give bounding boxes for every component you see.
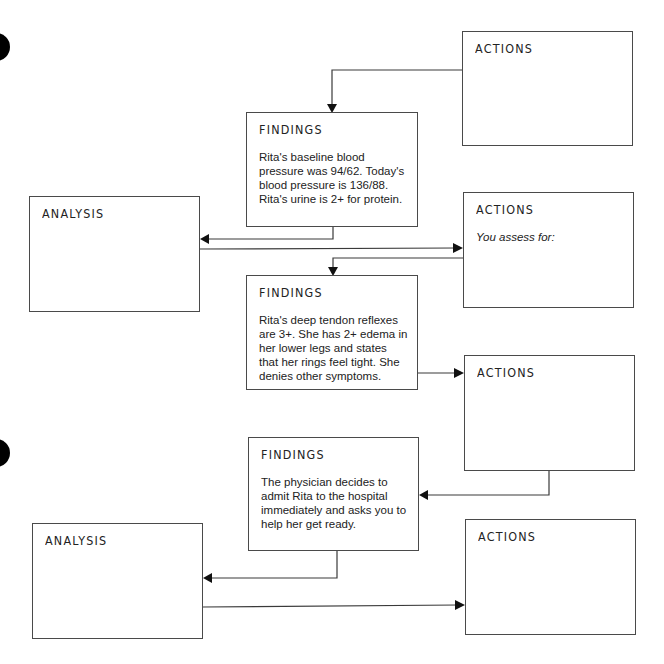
- connector-analysis1-to-actions2: [199, 243, 463, 253]
- findings-box-3-title: FINDINGS: [261, 447, 325, 462]
- connector-findings2-to-actions3: [418, 368, 464, 378]
- actions-box-2[interactable]: ACTIONS You assess for:: [463, 192, 634, 308]
- analysis-box-1[interactable]: ANALYSIS: [29, 196, 200, 312]
- findings-box-2: FINDINGS Rita's deep tendon reflexes are…: [246, 275, 418, 390]
- findings-box-3: FINDINGS The physician decides to admit …: [248, 437, 419, 551]
- connector-analysis2-to-actions4: [202, 600, 465, 610]
- analysis-box-2[interactable]: ANALYSIS: [32, 523, 203, 639]
- connector-findings3-to-analysis2: [203, 551, 337, 583]
- actions-box-2-title: ACTIONS: [476, 202, 534, 217]
- findings-box-3-body: The physician decides to admit Rita to t…: [261, 475, 410, 531]
- findings-box-2-body: Rita's deep tendon reflexes are 3+. She …: [259, 313, 409, 383]
- connector-actions1-to-findings1: [327, 70, 462, 113]
- actions-box-1[interactable]: ACTIONS: [462, 31, 633, 146]
- connector-findings1-to-analysis1: [200, 226, 333, 244]
- analysis-box-1-title: ANALYSIS: [42, 206, 104, 221]
- connector-actions3-to-findings3: [419, 470, 549, 500]
- connector-actions2-to-findings2: [328, 258, 463, 276]
- actions-box-3-title: ACTIONS: [477, 365, 535, 380]
- findings-box-1-body: Rita's baseline blood pressure was 94/62…: [259, 150, 409, 206]
- analysis-box-2-title: ANALYSIS: [45, 533, 107, 548]
- flowchart-page: ACTIONS FINDINGS Rita's baseline blood p…: [0, 0, 664, 664]
- findings-box-1: FINDINGS Rita's baseline blood pressure …: [246, 112, 418, 227]
- actions-box-1-title: ACTIONS: [475, 41, 533, 56]
- findings-box-1-title: FINDINGS: [259, 122, 323, 137]
- actions-box-3[interactable]: ACTIONS: [464, 355, 635, 471]
- actions-box-4[interactable]: ACTIONS: [465, 519, 636, 635]
- actions-box-2-prompt[interactable]: You assess for:: [476, 230, 625, 244]
- actions-box-4-title: ACTIONS: [478, 529, 536, 544]
- findings-box-2-title: FINDINGS: [259, 285, 323, 300]
- punch-hole-bottom: [0, 439, 10, 467]
- punch-hole-top: [0, 33, 10, 61]
